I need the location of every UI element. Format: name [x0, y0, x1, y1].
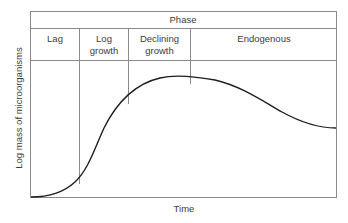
- phase-label-declining-line2: growth: [145, 45, 174, 56]
- x-axis-label: Time: [174, 203, 195, 214]
- y-axis-label: Log mass of microorganisms: [13, 47, 24, 169]
- phase-label-declining-line1: Declining: [140, 33, 179, 44]
- phase-header-title: Phase: [170, 14, 197, 25]
- growth-curve: [31, 76, 336, 197]
- phase-label-lag: Lag: [47, 33, 63, 44]
- phase-label-log-line2: growth: [90, 45, 119, 56]
- phase-label-log-line1: Log: [96, 33, 112, 44]
- phase-label-endogenous: Endogenous: [237, 33, 291, 44]
- growth-phase-diagram: Phase Lag Log growth Declining growth En…: [0, 0, 348, 223]
